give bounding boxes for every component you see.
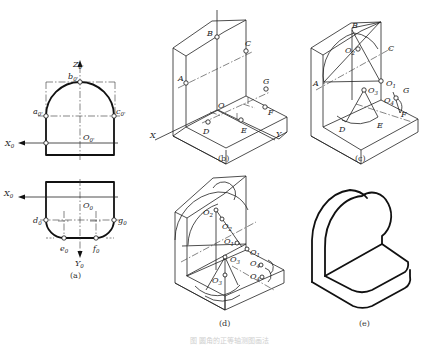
svg-text:A: A (177, 74, 184, 83)
center-O3-a (223, 255, 227, 259)
point-b0 (78, 80, 82, 84)
svg-text:C: C (388, 44, 394, 53)
svg-text:g0: g0 (118, 216, 127, 226)
center-O1 (379, 79, 383, 83)
svg-text:C: C (245, 39, 251, 48)
point-x0-axis (44, 141, 48, 145)
svg-text:F: F (267, 108, 274, 117)
svg-text:G: G (403, 86, 410, 95)
svg-text:Y0: Y0 (75, 259, 84, 269)
svg-text:e0: e0 (60, 244, 69, 254)
svg-text:f0: f0 (92, 244, 100, 254)
point-D (206, 120, 210, 124)
svg-text:O3: O3 (212, 276, 223, 286)
caption-a: (a) (70, 271, 81, 280)
point-G (264, 87, 268, 91)
center-O2-a (214, 208, 218, 212)
center-O4 (394, 96, 398, 100)
svg-text:D: D (338, 125, 346, 134)
point-A (184, 81, 188, 85)
point-E (239, 118, 243, 122)
svg-text:O0': O0' (83, 133, 95, 143)
svg-text:O1: O1 (250, 248, 260, 258)
svg-text:O4: O4 (384, 96, 395, 106)
panel-a-front-view: Z0' b0' a0' c0' O0' X0 (4, 60, 126, 160)
point-C (244, 49, 248, 53)
svg-text:X0: X0 (4, 139, 15, 149)
svg-text:E: E (376, 121, 383, 130)
svg-text:X0: X0 (3, 189, 14, 199)
caption-e: (e) (359, 319, 370, 328)
isometric-fillet-diagram: Z0' b0' a0' c0' O0' X0 X0 O0 d0 g0 e0 f0… (0, 0, 432, 345)
svg-text:O: O (218, 101, 225, 110)
svg-text:E: E (240, 126, 247, 135)
center-O2-b (220, 217, 224, 221)
panel-c-construction: A B C D E F G O1 O2 O3 O4 (c) (311, 21, 418, 164)
panel-a-top-view: X0 O0 d0 g0 e0 f0 Y0 (a) (3, 179, 127, 280)
svg-text:O4: O4 (250, 272, 261, 282)
svg-text:D: D (202, 127, 210, 136)
point-g0 (112, 218, 116, 222)
point-d0 (44, 218, 48, 222)
center-O4-b (260, 275, 264, 279)
svg-text:O1: O1 (386, 79, 396, 89)
svg-text:X: X (149, 131, 156, 140)
point-F (263, 105, 267, 109)
svg-text:b0': b0' (68, 72, 78, 82)
svg-text:O1: O1 (224, 237, 234, 247)
svg-text:F: F (400, 110, 407, 119)
svg-text:G: G (263, 77, 270, 86)
caption-c: (c) (355, 154, 366, 163)
center-O3 (362, 88, 366, 92)
svg-text:O0: O0 (83, 201, 94, 211)
svg-text:B: B (351, 21, 358, 30)
svg-text:O3: O3 (368, 86, 379, 96)
svg-text:O2: O2 (203, 208, 214, 218)
panel-d-construction: O2 O2 O1 O1 O3 O4 O4 O3 (d) (175, 176, 284, 328)
svg-text:O3: O3 (230, 255, 241, 265)
center-O2 (356, 47, 360, 51)
center-O1-a (235, 241, 239, 245)
svg-text:Y: Y (276, 130, 282, 139)
caption-d: (d) (219, 319, 230, 328)
svg-text:A: A (312, 79, 319, 88)
svg-text:d0: d0 (33, 216, 42, 226)
svg-text:a0': a0' (33, 107, 43, 117)
caption-b: (b) (218, 154, 229, 163)
svg-text:O2: O2 (222, 222, 233, 232)
center-O3-b (223, 273, 227, 277)
svg-text:O2: O2 (345, 46, 356, 56)
point-f0 (94, 236, 98, 240)
figure-caption: 图 圆角的正等轴测图画法 (190, 336, 269, 345)
center-O1-b (245, 247, 249, 251)
point-a0 (44, 114, 48, 118)
svg-text:Z0': Z0' (72, 60, 84, 70)
point-e0 (62, 236, 66, 240)
panel-b-isometric-box: A B C O D E F G X Y (b) (149, 10, 287, 164)
svg-text:B: B (206, 29, 213, 38)
svg-text:c0': c0' (116, 107, 126, 117)
panel-e-final-isometric: (e) (312, 190, 410, 328)
point-B (215, 35, 219, 39)
svg-text:O4: O4 (250, 259, 261, 269)
